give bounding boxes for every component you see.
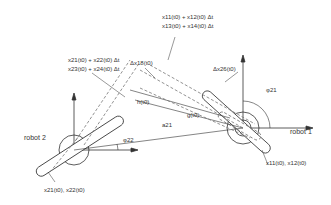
robot1-y-arrow — [241, 55, 245, 62]
robot-kinematics-diagram — [0, 0, 331, 205]
robot1-arm — [200, 89, 272, 155]
label-h: h(t0) — [137, 99, 149, 105]
label-top-left-line1: x21(t0) + x22(t0) Δt — [68, 57, 120, 63]
leader-pos2 — [48, 172, 55, 182]
label-robot2: robot 2 — [24, 134, 46, 141]
label-dx18: Δx18(t0) — [130, 60, 153, 66]
label-top-right-line1: x11(t0) + x12(t0) Δt — [162, 14, 213, 20]
robot1-angle-arc — [243, 101, 270, 128]
leader-dx26 — [225, 72, 238, 82]
label-phi21: φ21 — [266, 87, 277, 93]
label-phi22: φ22 — [123, 137, 134, 143]
dashed-link-1 — [140, 70, 243, 128]
label-top-left-line2: x23(t0) + x24(t0) Δt — [68, 66, 120, 72]
leader-dx18 — [145, 68, 155, 78]
leader-top-right — [168, 37, 175, 60]
leader-top-left — [92, 73, 125, 97]
label-pos2: x21(t0), x22(t0) — [44, 187, 85, 193]
robot2-arm — [34, 114, 125, 178]
label-robot1: robot 1 — [290, 128, 312, 135]
label-a21: a21 — [162, 122, 172, 128]
dashed-link-2 — [150, 65, 255, 124]
label-g: g(t0) — [187, 112, 199, 118]
label-pos1: x11(t0), x12(t0) — [266, 160, 306, 166]
robot2-x-arrow — [131, 148, 138, 152]
robot2-angle-arc — [117, 144, 118, 150]
robot2-y-arrow — [72, 93, 76, 100]
label-dx26: Δx26(t0) — [213, 66, 236, 72]
label-top-right-line2: x13(t0) + x14(t0) Δt — [162, 23, 214, 29]
